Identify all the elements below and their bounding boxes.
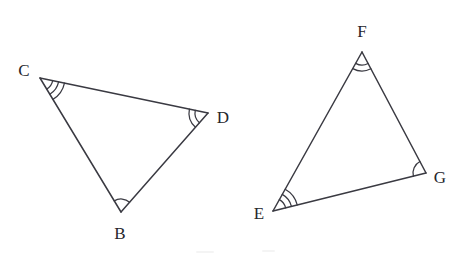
angle-arc-c-1 [47, 81, 53, 89]
angle-arc-e-1 [279, 200, 285, 208]
edge-cd [40, 78, 208, 113]
edge-ef [273, 52, 362, 211]
speck-left [196, 251, 214, 253]
edge-bc [40, 78, 121, 212]
angle-arc-f-1 [356, 63, 368, 65]
angle-mark-g [413, 162, 420, 177]
vertex-label-e: E [254, 205, 265, 222]
edge-db [121, 113, 208, 212]
vertex-label-c: C [18, 62, 30, 79]
angle-arc-e-3 [285, 189, 297, 205]
angle-arc-g-1 [413, 162, 420, 177]
vertex-label-b: B [114, 225, 126, 242]
angle-arc-c-3 [53, 83, 65, 99]
triangle-edges-layer [40, 52, 426, 212]
figure-canvas [0, 0, 465, 262]
edge-ge [273, 173, 426, 211]
angle-mark-b [114, 199, 129, 202]
vertex-label-d: D [217, 109, 229, 126]
angle-arc-b-1 [114, 199, 129, 202]
speck-right [262, 250, 275, 252]
angle-arcs-layer [47, 63, 420, 208]
vertex-label-f: F [357, 23, 367, 40]
edge-fg [362, 52, 426, 173]
vertex-label-g: G [434, 169, 446, 186]
geometry-figure: CDBFGE [0, 0, 465, 262]
angle-arc-d-1 [195, 110, 199, 122]
angle-arc-f-2 [353, 69, 371, 71]
angle-mark-c [47, 81, 65, 100]
